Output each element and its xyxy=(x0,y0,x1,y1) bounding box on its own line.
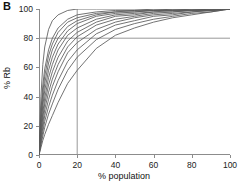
x-tick-mark xyxy=(39,155,40,158)
x-tick-mark xyxy=(154,155,155,158)
y-axis-label-container: % Rb xyxy=(0,58,15,98)
panel-label: B xyxy=(3,1,11,12)
series-line xyxy=(39,9,230,155)
y-tick-label: 0 xyxy=(28,151,33,160)
x-tick-label: 80 xyxy=(178,161,206,170)
y-tick-mark xyxy=(36,38,39,39)
x-tick-mark xyxy=(192,155,193,158)
y-tick-mark xyxy=(36,9,39,10)
y-tick-label: 100 xyxy=(19,5,33,14)
x-tick-label: 0 xyxy=(25,161,53,170)
x-tick-mark xyxy=(230,155,231,158)
x-tick-label: 40 xyxy=(101,161,129,170)
x-tick-label: 20 xyxy=(63,161,91,170)
figure-panel-b: B % Rb 020406080100 020406080100 % popul… xyxy=(0,0,248,191)
y-axis-label: % Rb xyxy=(3,67,12,89)
x-axis-label: % population xyxy=(0,172,248,181)
y-tick-label: 40 xyxy=(24,93,33,102)
plot-area xyxy=(39,9,230,155)
x-tick-label: 60 xyxy=(140,161,168,170)
x-tick-label: 100 xyxy=(216,161,244,170)
y-tick-label: 60 xyxy=(24,63,33,72)
y-tick-label: 20 xyxy=(24,122,33,131)
y-tick-mark xyxy=(36,97,39,98)
x-tick-mark xyxy=(115,155,116,158)
y-tick-mark xyxy=(36,67,39,68)
y-tick-label: 80 xyxy=(24,34,33,43)
curves-layer xyxy=(39,9,230,155)
x-tick-mark xyxy=(77,155,78,158)
y-tick-mark xyxy=(36,126,39,127)
